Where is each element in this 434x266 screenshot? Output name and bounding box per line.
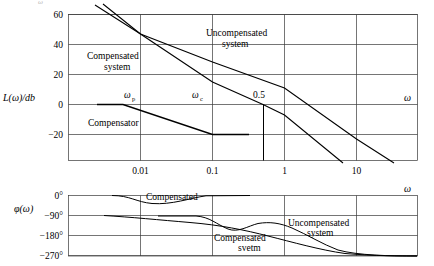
mag-xtick-10: 10 <box>352 166 362 176</box>
anno-omega-p-symbol: ω <box>124 90 131 100</box>
anno-omega-c-subscript: c <box>200 95 203 102</box>
figure-root: ω 60 40 20 0 −20 0.01 0.1 1 10 <box>0 0 434 266</box>
anno-phase-compensated-top: Compensated <box>146 192 198 202</box>
mag-y-axis-label: L(ω)/db <box>2 92 35 104</box>
anno-phase-compensated-line2: svetm <box>238 243 261 253</box>
anno-phase-uncompensated-line1: Uncompensated <box>288 218 349 228</box>
mag-xtick-0.01: 0.01 <box>132 166 149 176</box>
anno-omega-p: ω p <box>124 90 135 102</box>
mag-ytick-40: 40 <box>54 40 64 50</box>
phase-ytick-neg180: −180° <box>40 231 64 241</box>
anno-compensator: Compensator <box>88 118 139 128</box>
mag-xtick-0.1: 0.1 <box>207 166 219 176</box>
anno-phase-compensated-line1: Compensated <box>214 233 266 243</box>
phase-ytick-neg90: −90° <box>44 211 63 221</box>
mag-x-axis-label: ω <box>404 92 411 103</box>
mag-ytick-0: 0 <box>58 100 63 110</box>
anno-marker-value-0.5: 0.5 <box>253 90 265 100</box>
mag-ytick-20: 20 <box>54 70 64 80</box>
magnitude-bode-plot: 60 40 20 0 −20 0.01 0.1 1 10 L(ω)/db ω U… <box>0 0 434 186</box>
phase-ytick-neg270: −270° <box>40 251 64 261</box>
mag-ytick-60: 60 <box>54 10 64 20</box>
phase-bode-plot: 0° −90° −180° −270° φ(ω) ω Compensated C… <box>0 184 434 266</box>
anno-omega-c: ω c <box>192 90 203 102</box>
phase-x-axis-label: ω <box>404 184 411 194</box>
anno-phase-uncompensated-line2: system <box>307 228 334 238</box>
anno-uncompensated-line2: system <box>222 39 249 49</box>
anno-omega-c-symbol: ω <box>192 90 199 100</box>
mag-ytick-neg20: −20 <box>48 130 63 140</box>
phase-ytick-0: 0° <box>54 191 63 201</box>
anno-uncompensated-line1: Uncompensated <box>206 28 267 38</box>
anno-compensated-line2: system <box>104 62 131 72</box>
mag-xtick-1: 1 <box>282 166 287 176</box>
anno-compensated-line1: Compensated <box>87 51 139 61</box>
phase-y-axis-label: φ(ω) <box>14 203 34 215</box>
anno-omega-p-subscript: p <box>132 95 135 102</box>
